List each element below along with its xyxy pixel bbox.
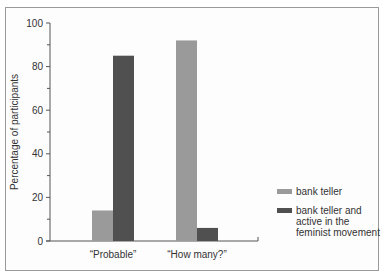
y-tick-label: 20 — [32, 192, 44, 203]
x-tick-label: “Probable” — [90, 249, 137, 260]
legend-swatch-light — [277, 189, 292, 194]
y-tick-label: 80 — [32, 61, 44, 72]
bar — [197, 228, 218, 241]
y-axis-label: Percentage of participants — [9, 74, 20, 190]
y-tick-label: 40 — [32, 148, 44, 159]
bar — [92, 210, 113, 241]
x-tick-label: “How many?” — [167, 249, 226, 260]
y-tick-label: 0 — [37, 236, 43, 247]
legend-item-bank-teller-feminist: bank teller and active in the feminist m… — [277, 205, 382, 238]
y-tick-label: 100 — [26, 18, 43, 29]
legend-label: bank teller and active in the feminist m… — [296, 205, 380, 238]
x-tick-labels: “Probable”“How many?” — [90, 249, 227, 260]
bars — [92, 40, 218, 241]
legend-swatch-dark — [277, 208, 292, 213]
legend: bank teller bank teller and active in th… — [277, 186, 382, 246]
legend-item-bank-teller: bank teller — [277, 186, 382, 197]
bar — [176, 40, 197, 241]
bar — [113, 56, 134, 241]
y-tick-label: 60 — [32, 105, 44, 116]
y-ticks: 020406080100 — [26, 18, 50, 247]
legend-label: bank teller — [296, 186, 342, 197]
